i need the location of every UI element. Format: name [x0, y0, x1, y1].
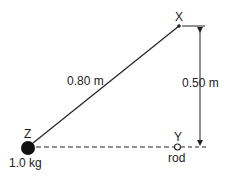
label-height: 0.50 m — [182, 77, 219, 89]
label-x: X — [175, 11, 183, 23]
label-y: Y — [174, 131, 182, 143]
pivot-point-x — [177, 24, 181, 28]
label-string-length: 0.80 m — [67, 75, 104, 87]
ball-z — [21, 141, 35, 155]
rod-y — [175, 144, 181, 150]
string-line — [33, 26, 179, 143]
pendulum-diagram — [0, 0, 226, 182]
label-z: Z — [24, 128, 31, 140]
label-rod: rod — [168, 152, 185, 164]
label-mass: 1.0 kg — [9, 157, 42, 169]
